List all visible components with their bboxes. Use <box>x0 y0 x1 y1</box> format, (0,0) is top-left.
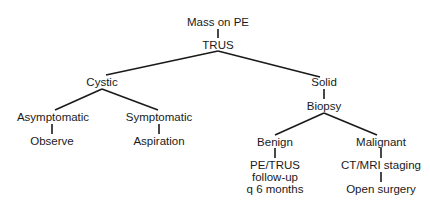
node-ct-mri-staging: CT/MRI staging <box>341 159 421 171</box>
connector-lines <box>0 0 430 206</box>
node-benign-followup-line1: PE/TRUS <box>250 159 300 171</box>
node-open-surgery: Open surgery <box>346 183 416 195</box>
node-trus: TRUS <box>202 39 233 51</box>
edge-biopsy-benign <box>275 113 324 135</box>
node-biopsy: Biopsy <box>307 100 342 112</box>
edge-trus-solid <box>218 51 320 77</box>
edge-cystic-asymptomatic <box>55 89 102 110</box>
node-asymptomatic: Asymptomatic <box>17 111 89 123</box>
node-benign-followup-line3: q 6 months <box>247 183 304 195</box>
edge-trus-cystic <box>106 51 218 75</box>
node-benign: Benign <box>257 136 293 148</box>
node-symptomatic: Symptomatic <box>126 111 192 123</box>
node-benign-followup-line2: follow-up <box>252 171 298 183</box>
edge-cystic-symptomatic <box>102 89 158 110</box>
node-solid: Solid <box>311 76 337 88</box>
node-malignant: Malignant <box>356 136 406 148</box>
edge-biopsy-malignant <box>324 113 377 135</box>
flowchart: Mass on PE TRUS Cystic Solid Asymptomati… <box>0 0 430 206</box>
node-aspiration: Aspiration <box>133 135 184 147</box>
node-observe: Observe <box>30 135 73 147</box>
node-cystic: Cystic <box>86 76 117 88</box>
node-mass-on-pe: Mass on PE <box>187 16 249 28</box>
